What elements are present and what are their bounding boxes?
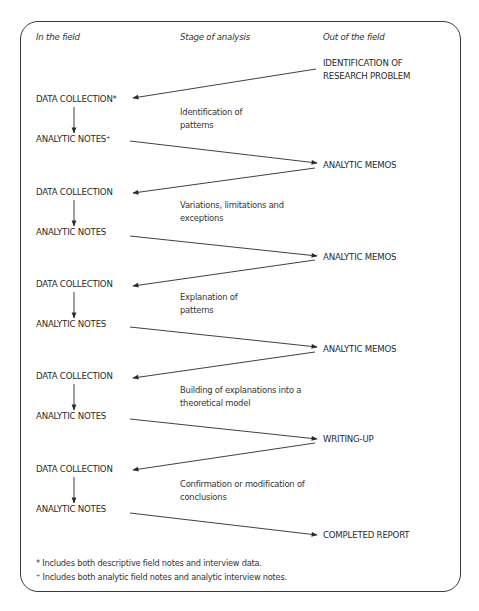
arrow-start-to-dc1 (133, 69, 316, 98)
arrow-am3-to-dc4 (133, 352, 315, 378)
arrow-writing-up-to-dc5 (133, 443, 315, 470)
arrow-an3-to-am3 (130, 327, 317, 347)
arrow-an4-to-writing-up (130, 419, 317, 439)
arrow-am1-to-dc2 (133, 168, 315, 193)
arrow-am2-to-dc3 (133, 260, 315, 286)
arrow-an1-to-am1 (130, 141, 317, 163)
arrow-an5-to-completed-report (130, 513, 317, 535)
arrow-an2-to-am2 (130, 236, 317, 256)
flow-arrows (0, 0, 479, 611)
